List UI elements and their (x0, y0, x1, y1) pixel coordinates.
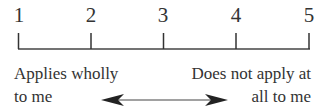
right-anchor-line2: all to me (192, 85, 311, 108)
left-anchor-line2: to me (14, 85, 118, 108)
left-anchor-line1: Applies wholly (14, 62, 118, 85)
right-anchor-label: Does not apply at all to me (192, 62, 311, 108)
left-anchor-label: Applies wholly to me (14, 62, 118, 108)
right-anchor-line1: Does not apply at (192, 62, 311, 85)
